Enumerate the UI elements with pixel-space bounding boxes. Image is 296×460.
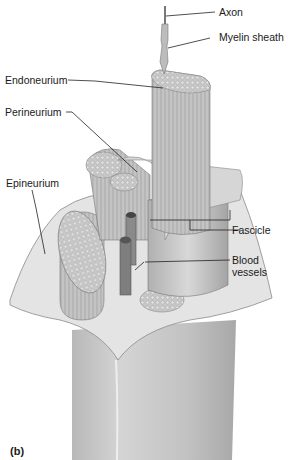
nerve-trunk xyxy=(72,320,236,460)
label-epineurium: Epineurium xyxy=(6,177,59,189)
panel-label: (b) xyxy=(10,445,24,457)
label-blood-vessels-1: Blood xyxy=(232,254,259,266)
label-fascicle: Fascicle xyxy=(232,224,271,236)
label-myelin-sheath: Myelin sheath xyxy=(219,31,284,43)
label-endoneurium: Endoneurium xyxy=(5,74,67,86)
label-perineurium: Perineurium xyxy=(5,106,62,118)
axon-bundle xyxy=(152,70,211,235)
label-blood-vessels-2: vessels xyxy=(232,266,267,278)
label-axon: Axon xyxy=(219,6,243,18)
